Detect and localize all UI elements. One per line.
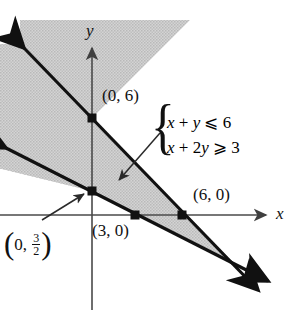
inequality-graph (0, 0, 294, 322)
point-0-three-halves (88, 187, 97, 196)
point-label-0-6: (0, 6) (102, 87, 139, 104)
point-label-6-0: (6, 0) (193, 186, 230, 203)
point-6-0 (178, 211, 187, 220)
inequality-x-plus-2y-ge-3: x + 2y ⩾ 3 (167, 137, 240, 158)
frac-label-zero: 0, (14, 236, 31, 253)
point-label-0-three-halves: ( 0, 3 2 ) (4, 232, 52, 257)
paren-close: ) (41, 232, 51, 257)
inequality-x-plus-y-le-6: x + y ⩽ 6 (167, 112, 240, 133)
x-axis-label: x (276, 205, 284, 222)
y-axis-label: y (86, 22, 94, 39)
fraction-three-halves: 3 2 (32, 232, 40, 257)
point-label-3-0: (3, 0) (92, 222, 129, 239)
point-3-0 (131, 211, 140, 220)
fraction-denominator: 2 (32, 245, 40, 257)
point-0-6 (88, 114, 97, 123)
fraction-numerator: 3 (32, 232, 40, 245)
paren-open: ( (4, 232, 14, 257)
system-of-inequalities: x + y ⩽ 6 x + 2y ⩾ 3 (167, 112, 240, 162)
